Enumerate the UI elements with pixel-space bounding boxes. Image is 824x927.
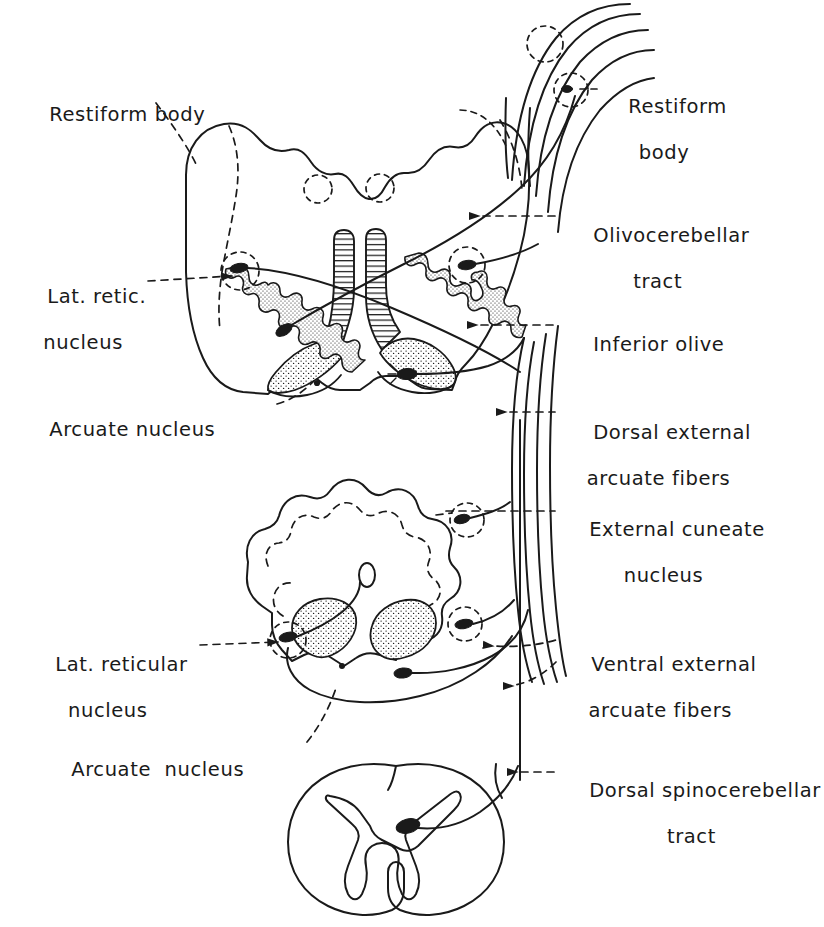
label-ventral-external-arcuate-fibers: Ventral external arcuate fibers — [564, 630, 756, 768]
pyramid-right — [366, 229, 400, 350]
ventral-arcuate-neuron-right — [454, 618, 473, 630]
upper-fiber-paths — [247, 96, 575, 374]
spinal-cord-outline — [288, 764, 504, 915]
arcuate-nucleus-right — [380, 338, 455, 389]
external-cuneate-leader-left — [436, 513, 452, 515]
label-arcuate-nucleus-upper: Arcuate nucleus — [22, 395, 215, 464]
upper-medulla-section — [148, 103, 555, 404]
restiform-base-edge-1 — [505, 98, 508, 178]
spinal-gray-matter — [326, 792, 461, 900]
lower-arcuate-neuron-left-dot — [339, 663, 345, 669]
fasciculus-circle-left — [304, 175, 332, 203]
restiform-neuron — [562, 86, 573, 93]
spinal-cord-section — [288, 764, 518, 915]
external-cuneate-neuron — [453, 513, 471, 525]
lower-fiber-cuneate — [470, 502, 510, 518]
label-inferior-olive: Inferior olive — [566, 310, 724, 379]
descending-fiber-2 — [524, 342, 544, 684]
lower-medulla-section — [200, 480, 528, 703]
lower-arcuate-neuron-right — [394, 667, 413, 679]
lower-fiber-ventral-arcuate — [473, 600, 514, 624]
descending-fiber-bundle — [512, 326, 566, 780]
restiform-base-edge-2 — [528, 108, 530, 186]
label-arcuate-nucleus-lower: Arcuate nucleus — [44, 735, 244, 804]
lat-retic-leader-left — [148, 276, 232, 281]
label-lat-retic-nucleus: Lat. retic. nucleus — [20, 262, 146, 400]
label-dorsal-spinocerebellar-tract: Dorsal spinocerebellar tract — [562, 756, 821, 894]
lower-lat-reticular-leader — [200, 642, 278, 645]
descending-fiber-1 — [512, 338, 532, 682]
fasciculus-circle-right — [366, 174, 394, 202]
upper-medulla-inner-dashed — [219, 126, 238, 330]
anatomical-figure: Restiform body Restiform body Olivocereb… — [0, 0, 824, 927]
restiform-section-circle-upper — [527, 26, 563, 62]
label-restiform-body-left: Restiform body — [22, 80, 205, 149]
descending-fiber-3 — [537, 334, 557, 682]
spinal-dorsal-fissure — [388, 766, 396, 790]
retic-neuron-right — [457, 259, 476, 271]
retic-fiber-right — [475, 244, 538, 264]
spinal-neuron-axon — [418, 766, 518, 828]
label-external-cuneate-nucleus: External cuneate nucleus — [562, 495, 765, 633]
lower-arcuate-nucleus-right — [370, 600, 436, 659]
central-canal-lower-medulla — [359, 563, 375, 587]
label-restiform-body-right: Restiform body — [601, 72, 727, 210]
